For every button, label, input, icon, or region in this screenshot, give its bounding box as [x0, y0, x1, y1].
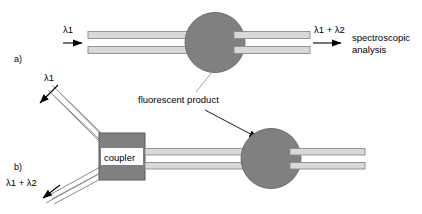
figure-canvas: a) λ1 λ1 + λ2 spectroscopic [0, 0, 422, 214]
panel-a-fiber-left [88, 32, 196, 54]
fluorescent-product-label: fluorescent product [138, 94, 219, 105]
panel-a-fluorescent-zone-circle [185, 13, 245, 73]
fluorescent-product-annotation: fluorescent product [138, 72, 258, 138]
annotation-leader-to-panel-a [196, 72, 212, 92]
diagram-svg: a) λ1 λ1 + λ2 spectroscopic [0, 0, 422, 214]
spectroscopic-analysis-label-line1: spectroscopic [352, 32, 410, 43]
panel-a: a) λ1 λ1 + λ2 spectroscopic [14, 13, 410, 73]
panel-a-input-wavelength-label: λ1 [63, 24, 73, 35]
spectroscopic-analysis-label-line2: analysis [352, 44, 387, 55]
annotation-leader-to-panel-b [205, 110, 258, 138]
panel-b-input-wavelength-label: λ1 + λ2 [6, 177, 37, 188]
panel-b-fluorescent-zone-circle [241, 129, 301, 189]
panel-a-label: a) [14, 54, 22, 64]
panel-b: b) λ1 λ1 + λ2 [6, 72, 365, 204]
panel-b-label: b) [14, 162, 22, 172]
panel-b-fiber-lower-branch [44, 166, 107, 204]
panel-a-output-wavelength-label: λ1 + λ2 [314, 24, 345, 35]
panel-b-fiber-left [145, 149, 252, 170]
panel-b-output-wavelength-label: λ1 [44, 72, 54, 83]
panel-b-output-arrow [40, 85, 58, 103]
coupler-label: coupler [104, 152, 135, 163]
